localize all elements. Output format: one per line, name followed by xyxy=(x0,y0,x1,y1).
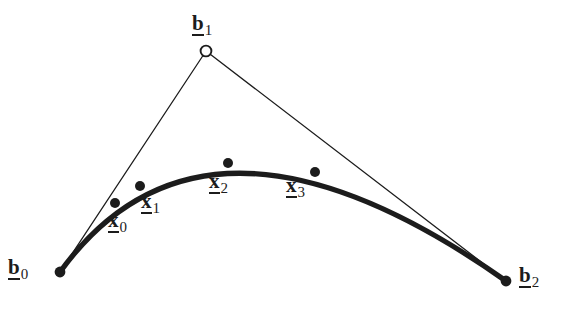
point-label-x0-base: x xyxy=(108,211,119,233)
point-label-b0-subscript: 0 xyxy=(21,267,29,282)
point-label-b1: b1 xyxy=(192,14,211,36)
point-label-b2-subscript: 2 xyxy=(532,275,540,290)
point-label-x3: x3 xyxy=(286,176,304,198)
point-label-x1: x1 xyxy=(141,192,159,214)
point-label-b0-base: b xyxy=(8,258,20,280)
point-label-b0: b0 xyxy=(8,258,27,280)
point-label-b2: b2 xyxy=(519,266,538,288)
point-label-x3-base: x xyxy=(286,176,297,198)
diagram-canvas xyxy=(0,0,567,313)
point-label-x3-subscript: 3 xyxy=(298,185,306,200)
control-point-marker-b1[interactable] xyxy=(201,46,212,57)
point-label-b1-subscript: 1 xyxy=(205,23,213,38)
point-label-x2-subscript: 2 xyxy=(221,181,229,196)
bezier-curve-figure: b0 b1 b2 x0 x1 x2 x3 xyxy=(0,0,567,313)
point-label-x2: x2 xyxy=(209,172,227,194)
point-label-x0-subscript: 0 xyxy=(120,220,128,235)
point-label-x1-base: x xyxy=(141,192,152,214)
control-polygon-segment-b1-b2 xyxy=(206,51,506,281)
control-point-marker-b0[interactable] xyxy=(55,267,66,278)
point-label-x2-base: x xyxy=(209,172,220,194)
point-label-x0: x0 xyxy=(108,211,126,233)
curve-point-marker-x3[interactable] xyxy=(310,167,320,177)
point-label-b1-base: b xyxy=(192,14,204,36)
control-polygon-segment-b0-b1 xyxy=(60,51,206,272)
point-label-x1-subscript: 1 xyxy=(153,201,161,216)
point-label-b2-base: b xyxy=(519,266,531,288)
control-point-marker-b2[interactable] xyxy=(501,276,512,287)
curve-point-marker-x2[interactable] xyxy=(223,158,233,168)
curve-point-marker-x0[interactable] xyxy=(110,198,120,208)
